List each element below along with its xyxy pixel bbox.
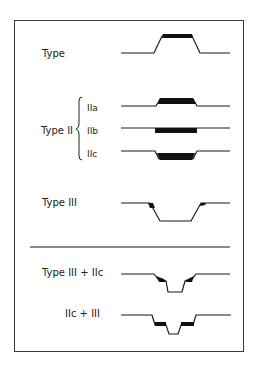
trace-type-iii xyxy=(121,203,230,221)
diagram-graphics xyxy=(0,0,256,368)
trace-iic-plus-iii xyxy=(121,315,231,334)
trace-type xyxy=(121,34,230,53)
trace-iib xyxy=(121,128,230,133)
brace-icon xyxy=(76,97,82,160)
trace-iic xyxy=(121,151,230,160)
trace-type-iii-plus-iic xyxy=(121,274,230,292)
trace-iia xyxy=(121,98,230,106)
